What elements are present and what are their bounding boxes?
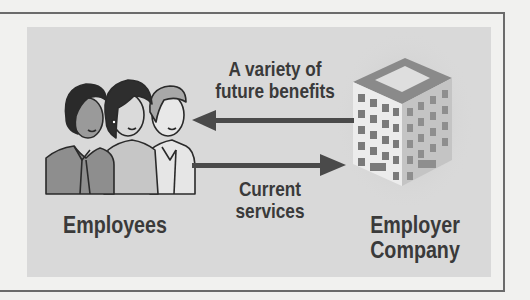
employer-label-line1: Employer	[354, 212, 477, 237]
benefits-label: A variety of future benefits	[214, 58, 337, 102]
employer-label: Employer Company	[354, 212, 477, 262]
services-label: Current services	[213, 178, 328, 222]
employer-label-line2: Company	[354, 237, 477, 262]
benefits-label-line1: A variety of	[214, 58, 337, 80]
employees-label: Employees	[58, 212, 173, 237]
arrow-services-right	[192, 154, 346, 176]
arrow-benefits-left	[192, 110, 354, 131]
services-label-line2: services	[213, 200, 328, 222]
benefits-label-line2: future benefits	[214, 80, 337, 102]
services-label-line1: Current	[213, 178, 328, 200]
people-group-icon	[46, 80, 195, 194]
office-building-icon	[335, 30, 475, 210]
